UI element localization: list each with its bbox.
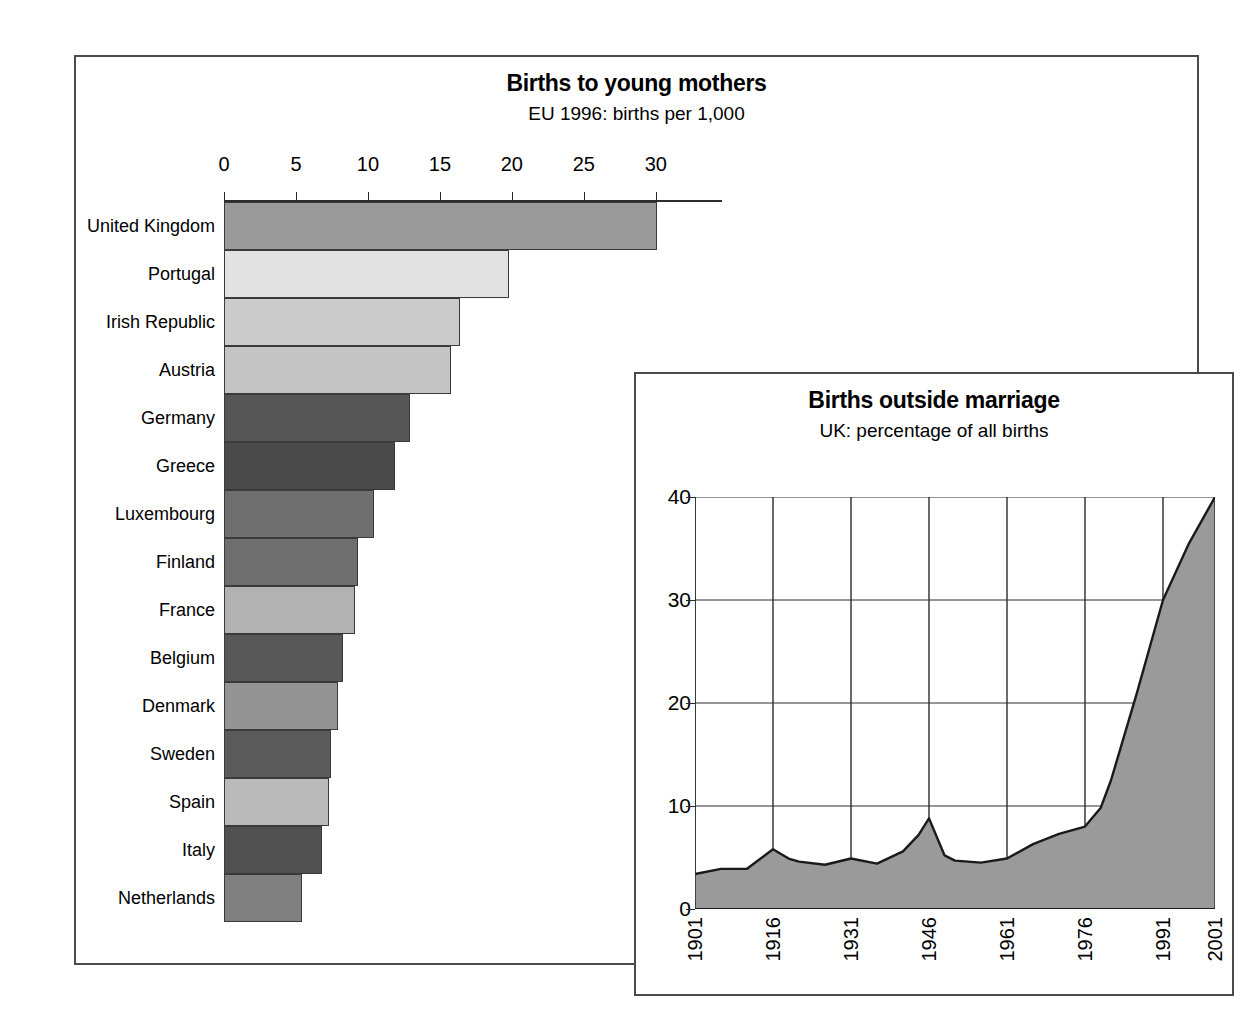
bar-chart-x-tick-label: 25 [573,153,595,176]
area-chart-x-tick-label: 1961 [996,917,1019,962]
bar-category-label: Portugal [148,250,224,298]
area-chart-svg [695,497,1215,909]
bar-rect [224,346,451,394]
bar-rect [224,586,355,634]
bar-chart-x-tick-label: 10 [357,153,379,176]
bar-rect [224,250,509,298]
area-chart-x-tick-label: 1976 [1074,917,1097,962]
area-chart-x-tick-label: 1931 [840,917,863,962]
bar-category-label: Finland [156,538,224,586]
bar-rect [224,682,338,730]
bar-chart-row: United Kingdom [76,202,1196,250]
bar-chart-x-tick [512,192,513,201]
area-chart-y-tick-label: 40 [631,485,691,509]
bar-chart-x-tick-label: 20 [501,153,523,176]
area-chart-y-tick-label: 20 [631,691,691,715]
area-chart-x-tick-label: 1901 [684,917,707,962]
births-outside-marriage-panel: Births outside marriage UK: percentage o… [634,372,1234,996]
bar-rect [224,202,657,250]
area-chart-y-tick [686,497,695,498]
area-chart-x-tick-label: 2001 [1204,917,1227,962]
bar-chart-x-tick [368,192,369,201]
area-chart-plot-area: 010203040 190119161931194619611976199120… [695,497,1215,909]
area-chart-y-tick [686,806,695,807]
area-chart-x-tick-label: 1991 [1152,917,1175,962]
bar-chart-x-tick [584,192,585,201]
bar-rect [224,634,343,682]
area-chart-y-tick-label: 10 [631,794,691,818]
bar-chart-x-tick [296,192,297,201]
bar-category-label: Luxembourg [115,490,224,538]
area-chart-y-tick-label: 30 [631,588,691,612]
bar-category-label: Netherlands [118,874,224,922]
bar-chart-row: Portugal [76,250,1196,298]
area-chart-y-tick-label: 0 [631,897,691,921]
bar-category-label: Greece [156,442,224,490]
bar-category-label: Irish Republic [106,298,224,346]
bar-chart-x-tick-label: 0 [218,153,229,176]
area-chart-y-tick [686,600,695,601]
bar-category-label: Italy [182,826,224,874]
bar-rect [224,394,410,442]
bar-category-label: Denmark [142,682,224,730]
bar-chart-x-tick [440,192,441,201]
area-chart-subtitle: UK: percentage of all births [636,420,1232,442]
bar-category-label: Germany [141,394,224,442]
area-chart-x-tick-label: 1916 [762,917,785,962]
bar-rect [224,826,322,874]
bar-chart-x-tick-label: 15 [429,153,451,176]
area-chart-x-tick-label: 1946 [918,917,941,962]
bar-category-label: Sweden [150,730,224,778]
bar-rect [224,298,460,346]
bar-category-label: Spain [169,778,224,826]
bar-rect [224,778,329,826]
bar-category-label: France [159,586,224,634]
bar-category-label: Belgium [150,634,224,682]
bar-chart-x-tick [224,192,225,201]
bar-rect [224,490,374,538]
bar-chart-x-tick [656,192,657,201]
area-chart-y-tick [686,703,695,704]
bar-category-label: Austria [159,346,224,394]
area-chart-title: Births outside marriage [636,387,1232,414]
bar-rect [224,874,302,922]
bar-chart-row: Irish Republic [76,298,1196,346]
bar-category-label: United Kingdom [87,202,224,250]
area-chart-y-tick [686,909,695,910]
bar-rect [224,730,331,778]
bar-rect [224,538,358,586]
bar-rect [224,442,395,490]
bar-chart-x-tick-label: 5 [290,153,301,176]
bar-chart-x-tick-label: 30 [645,153,667,176]
